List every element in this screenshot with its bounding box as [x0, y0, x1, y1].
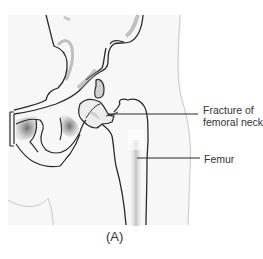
- label-fracture-of-femoral-neck: Fracture of femoral neck: [203, 104, 263, 128]
- label-fracture-line2: femoral neck: [203, 116, 263, 128]
- label-femur: Femur: [204, 153, 234, 165]
- hip-fracture-diagram: Fracture of femoral neck Femur (A): [0, 0, 263, 259]
- figure-caption: (A): [106, 229, 123, 244]
- hip-anatomy-illustration: [0, 0, 263, 259]
- label-fracture-line1: Fracture of: [203, 104, 263, 116]
